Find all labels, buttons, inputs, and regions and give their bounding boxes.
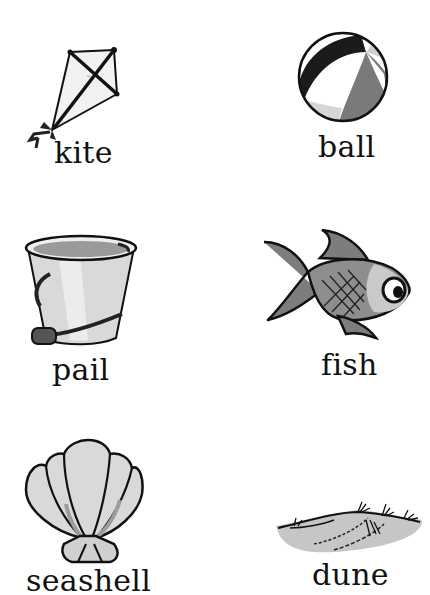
pail-icon (18, 232, 138, 348)
word-label-pail: pail (52, 355, 109, 385)
word-label-ball: ball (318, 132, 375, 162)
word-label-seashell: seashell (26, 566, 151, 595)
svg-text:·: · (100, 66, 102, 73)
word-label-dune: dune (312, 560, 389, 590)
seashell-icon (24, 440, 144, 566)
word-label-kite: kite (54, 138, 113, 168)
worksheet-page: { "worksheet": { "items": [ { "word": "k… (0, 0, 430, 595)
svg-text:~: ~ (86, 72, 91, 79)
kite-icon: ~ · (26, 48, 122, 136)
beach-ball-icon (296, 30, 390, 124)
dune-icon (274, 500, 424, 556)
fish-icon (264, 228, 416, 346)
word-label-fish: fish (321, 350, 378, 380)
